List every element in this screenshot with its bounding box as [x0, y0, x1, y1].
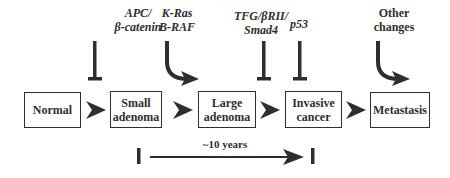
- stage-large-adenoma-line2: adenoma: [204, 110, 251, 124]
- timeline-start-bar: [137, 148, 141, 164]
- stage-invasive-cancer-line1: Invasive: [292, 96, 335, 110]
- flow-arrow-icon: [173, 101, 193, 119]
- timeline-end-bar: [311, 148, 315, 164]
- stage-metastasis-label: Metastasis: [373, 103, 427, 117]
- inhibition-icon: [88, 41, 102, 81]
- timeline-line: [150, 156, 290, 158]
- flow-arrow-icon: [346, 101, 366, 119]
- stage-invasive-cancer-line2: cancer: [297, 110, 331, 124]
- stage-small-adenoma: Small adenoma: [110, 91, 162, 128]
- activation-arrow-icon: [167, 41, 199, 86]
- stage-metastasis: Metastasis: [370, 92, 430, 128]
- inhibition-icon: [293, 41, 307, 81]
- timeline-graphic: [137, 148, 315, 165]
- inhibition-icon: [257, 41, 271, 81]
- stage-normal-label: Normal: [33, 103, 72, 117]
- stage-small-adenoma-line1: Small: [121, 96, 150, 110]
- stage-normal: Normal: [24, 92, 81, 128]
- stage-large-adenoma-line1: Large: [212, 96, 243, 110]
- flow-arrow-icon: [260, 101, 280, 119]
- stage-large-adenoma: Large adenoma: [198, 91, 256, 128]
- activation-arrow-icon: [378, 41, 410, 86]
- stage-small-adenoma-line2: adenoma: [113, 110, 160, 124]
- diagram-graphics: [0, 0, 450, 178]
- timeline-label: ~10 years: [185, 138, 265, 150]
- stage-invasive-cancer: Invasive cancer: [285, 91, 342, 128]
- flow-arrow-icon: [86, 101, 106, 119]
